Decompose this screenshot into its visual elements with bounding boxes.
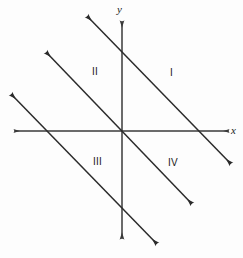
parallel-line-1 (87, 16, 231, 164)
graph-canvas (0, 0, 243, 258)
parallel-line-3 (11, 94, 157, 244)
coordinate-plane-figure: y x I II III IV (0, 0, 243, 258)
quadrant-label-iv: IV (168, 158, 178, 168)
quadrant-label-ii: II (92, 67, 98, 77)
x-axis-label: x (231, 125, 236, 136)
y-axis-label: y (117, 4, 122, 15)
quadrant-label-i: I (170, 68, 173, 78)
quadrant-label-iii: III (93, 157, 102, 167)
